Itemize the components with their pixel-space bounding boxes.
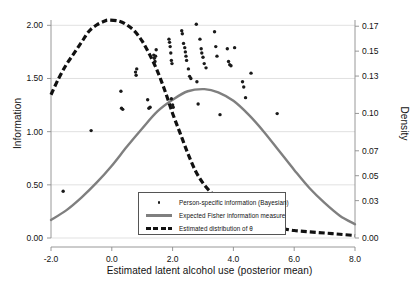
legend-entry-fisher: Expected Fisher information measure	[139, 209, 287, 222]
y-axis-right-title: Density	[399, 59, 410, 189]
x-axis-title: Estimated latent alcohol use (posterior …	[0, 265, 419, 276]
legend-label-fisher: Expected Fisher information measure	[179, 212, 285, 219]
y-tick-right-0: 0.00	[362, 233, 396, 243]
chart-figure: Estimated latent alcohol use (posterior …	[0, 0, 419, 288]
y-tick-right-7: 0.17	[362, 21, 396, 31]
legend-entry-density: Estimated distribution of θ	[139, 222, 287, 235]
y-tick-left-3: 1.50	[9, 73, 43, 83]
legend-solid-line-icon	[139, 209, 179, 222]
y-tick-left-1: 0.50	[9, 180, 43, 190]
x-tick-5: 8.0	[338, 254, 372, 264]
legend-label-density: Estimated distribution of θ	[179, 225, 253, 232]
x-tick-4: 6.0	[277, 254, 311, 264]
y-tick-right-2: 0.05	[362, 171, 396, 181]
legend-label-scatter: Person-specific information (Bayesian)	[179, 199, 289, 206]
x-tick-1: 0.0	[95, 254, 129, 264]
plot-canvas	[0, 0, 419, 288]
y-tick-right-3: 0.07	[362, 146, 396, 156]
legend-dashed-line-icon	[139, 222, 179, 235]
y-tick-left-0: 0.00	[9, 233, 43, 243]
y-tick-left-2: 1.00	[9, 127, 43, 137]
x-tick-0: -2.0	[34, 254, 68, 264]
y-tick-right-1: 0.03	[362, 196, 396, 206]
y-tick-right-6: 0.15	[362, 46, 396, 56]
legend-entry-scatter: Person-specific information (Bayesian)	[139, 196, 287, 209]
legend-dot-marker-icon	[139, 196, 179, 209]
y-tick-right-5: 0.13	[362, 71, 396, 81]
y-tick-left-4: 2.00	[9, 20, 43, 30]
chart-legend: Person-specific information (Bayesian) E…	[138, 192, 286, 235]
x-tick-3: 4.0	[216, 254, 250, 264]
x-tick-2: 2.0	[156, 254, 190, 264]
y-tick-right-4: 0.10	[362, 108, 396, 118]
